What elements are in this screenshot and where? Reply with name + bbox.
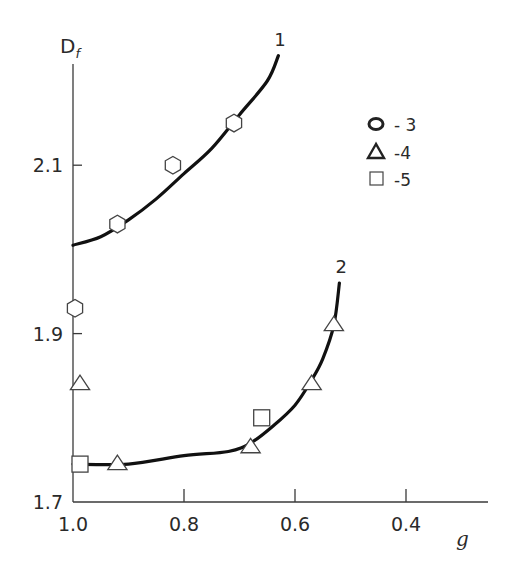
- fitted-curves: [73, 56, 339, 465]
- marker-circle: [165, 156, 180, 174]
- tick-labels: 1.00.80.60.41.71.92.1: [33, 154, 421, 535]
- legend-square-icon: [370, 172, 383, 185]
- chart: 1.00.80.60.41.71.92.1 Df g 12 - 3-4-5: [0, 0, 515, 573]
- marker-triangle: [302, 375, 321, 389]
- legend-label: -4: [394, 143, 411, 163]
- y-axis-title-subscript: f: [75, 46, 82, 61]
- axes: [73, 64, 488, 502]
- curve-2: [73, 283, 339, 465]
- marker-circle: [226, 114, 241, 132]
- x-tick-label: 0.4: [391, 513, 421, 535]
- curve-1: [73, 56, 278, 245]
- curve-label-2: 2: [335, 256, 346, 277]
- y-tick-label: 1.7: [33, 491, 63, 513]
- curve-labels: 12: [274, 29, 347, 277]
- y-tick-label: 1.9: [33, 323, 63, 345]
- y-tick-label: 2.1: [33, 154, 63, 176]
- legend-label: - 3: [394, 115, 416, 135]
- legend-circle-icon: [369, 119, 383, 130]
- marker-square: [254, 410, 270, 426]
- marker-triangle: [324, 316, 343, 330]
- legend-label: -5: [394, 170, 411, 190]
- x-axis-title: g: [456, 527, 469, 551]
- ticks: [73, 165, 406, 502]
- marker-square: [72, 456, 88, 472]
- data-markers: [67, 114, 343, 472]
- curve-label-1: 1: [274, 29, 285, 50]
- marker-circle: [67, 300, 82, 318]
- x-tick-label: 0.6: [280, 513, 310, 535]
- y-axis-title-main: D: [60, 34, 75, 58]
- marker-triangle: [108, 455, 127, 469]
- x-tick-label: 1.0: [58, 513, 88, 535]
- x-tick-label: 0.8: [169, 513, 199, 535]
- marker-circle: [110, 215, 125, 233]
- legend: - 3-4-5: [368, 115, 416, 190]
- y-axis-title: Df: [60, 34, 82, 61]
- legend-triangle-icon: [368, 144, 384, 158]
